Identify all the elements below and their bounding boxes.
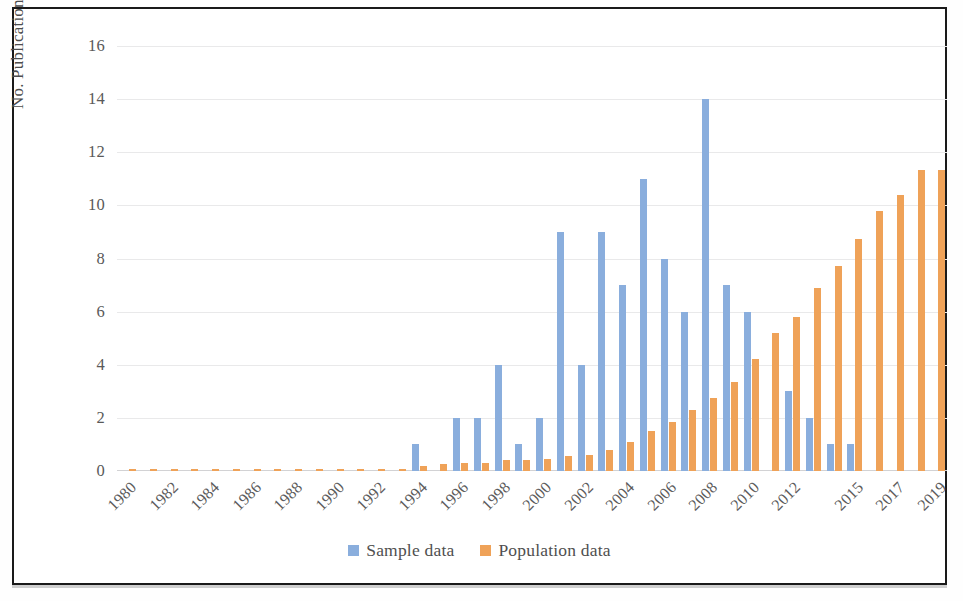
bar-group xyxy=(474,46,489,471)
bar-population-data xyxy=(565,456,572,471)
bar-group xyxy=(432,46,447,471)
bar-population-data xyxy=(876,211,883,471)
gridline xyxy=(117,46,947,47)
bar-group xyxy=(266,46,281,471)
bar-population-data xyxy=(710,398,717,471)
bar-group xyxy=(142,46,157,471)
x-tick-label: 2017 xyxy=(872,478,908,514)
y-tick-label: 8 xyxy=(96,249,105,269)
bar-population-data xyxy=(503,460,510,471)
bar-sample-data xyxy=(723,285,730,471)
bar-sample-data xyxy=(536,418,543,471)
bar-population-data xyxy=(233,469,240,471)
gridline xyxy=(117,152,947,153)
bar-population-data xyxy=(606,450,613,471)
bar-population-data xyxy=(855,239,862,471)
bar-population-data xyxy=(420,466,427,471)
bar-sample-data xyxy=(412,444,419,471)
bar-population-data xyxy=(772,333,779,471)
bar-group xyxy=(598,46,613,471)
bar-population-data xyxy=(648,431,655,471)
x-tick-label: 1998 xyxy=(478,478,514,514)
y-tick-label: 6 xyxy=(96,302,105,322)
bar-group xyxy=(785,46,800,471)
x-tick-label: 2012 xyxy=(769,478,805,514)
bar-group xyxy=(827,46,842,471)
bar-group xyxy=(536,46,551,471)
bar-group xyxy=(370,46,385,471)
bar-sample-data xyxy=(598,232,605,471)
bar-population-data xyxy=(669,422,676,471)
legend-item[interactable]: Sample data xyxy=(348,540,454,561)
bar-sample-data xyxy=(847,444,854,471)
bar-population-data xyxy=(731,382,738,471)
bar-group xyxy=(287,46,302,471)
bar-sample-data xyxy=(661,259,668,472)
bar-group xyxy=(557,46,572,471)
bar-group xyxy=(495,46,510,471)
bar-group xyxy=(246,46,261,471)
x-tick-label: 1994 xyxy=(395,478,431,514)
gridline xyxy=(117,205,947,206)
bar-group xyxy=(661,46,676,471)
plot-area xyxy=(117,46,947,471)
bar-population-data xyxy=(689,410,696,471)
bar-sample-data xyxy=(557,232,564,471)
y-tick-label: 14 xyxy=(88,89,105,109)
bar-population-data xyxy=(150,469,157,471)
bar-group xyxy=(744,46,759,471)
chart-legend: Sample dataPopulation data xyxy=(14,540,945,561)
legend-swatch-icon xyxy=(348,545,359,556)
bar-population-data xyxy=(897,195,904,471)
bar-group xyxy=(349,46,364,471)
x-axis-tick-labels: 1980198219841986198819901992199419961998… xyxy=(117,477,947,547)
x-tick-label: 1988 xyxy=(271,478,307,514)
y-tick-label: 0 xyxy=(96,461,105,481)
bar-population-data xyxy=(171,469,178,471)
y-tick-label: 10 xyxy=(88,195,105,215)
figure: No. Publications (%) 0246810121416 19801… xyxy=(0,0,963,601)
bar-population-data xyxy=(482,463,489,471)
bar-population-data xyxy=(918,170,925,471)
legend-label: Population data xyxy=(498,540,610,561)
bar-group xyxy=(889,46,904,471)
bar-population-data xyxy=(461,463,468,471)
gridline xyxy=(117,312,947,313)
bar-sample-data xyxy=(681,312,688,471)
bar-population-data xyxy=(399,469,406,471)
chart-frame: No. Publications (%) 0246810121416 19801… xyxy=(12,7,947,585)
x-tick-label: 2006 xyxy=(644,478,680,514)
y-tick-label: 4 xyxy=(96,355,105,375)
bar-group xyxy=(412,46,427,471)
bar-group xyxy=(121,46,136,471)
x-axis-line xyxy=(117,470,947,471)
bar-group xyxy=(619,46,634,471)
gridline xyxy=(117,418,947,419)
bar-population-data xyxy=(316,469,323,471)
bar-population-data xyxy=(793,317,800,471)
bar-population-data xyxy=(378,469,385,471)
x-tick-label: 2004 xyxy=(603,478,639,514)
bar-sample-data xyxy=(474,418,481,471)
legend-item[interactable]: Population data xyxy=(480,540,610,561)
bar-sample-data xyxy=(640,179,647,471)
bar-population-data xyxy=(586,455,593,471)
bar-population-data xyxy=(274,469,281,471)
y-tick-label: 2 xyxy=(96,408,105,428)
legend-label: Sample data xyxy=(366,540,454,561)
bar-group xyxy=(225,46,240,471)
x-tick-label: 1982 xyxy=(146,478,182,514)
bar-group xyxy=(847,46,862,471)
x-tick-label: 2002 xyxy=(561,478,597,514)
bar-population-data xyxy=(752,359,759,471)
x-tick-label: 1986 xyxy=(229,478,265,514)
bar-sample-data xyxy=(785,391,792,471)
bar-group xyxy=(702,46,717,471)
x-tick-label: 2008 xyxy=(686,478,722,514)
bar-group xyxy=(764,46,779,471)
bar-group xyxy=(183,46,198,471)
bar-group xyxy=(163,46,178,471)
bar-population-data xyxy=(212,469,219,471)
bar-sample-data xyxy=(515,444,522,471)
x-tick-label: 1990 xyxy=(312,478,348,514)
